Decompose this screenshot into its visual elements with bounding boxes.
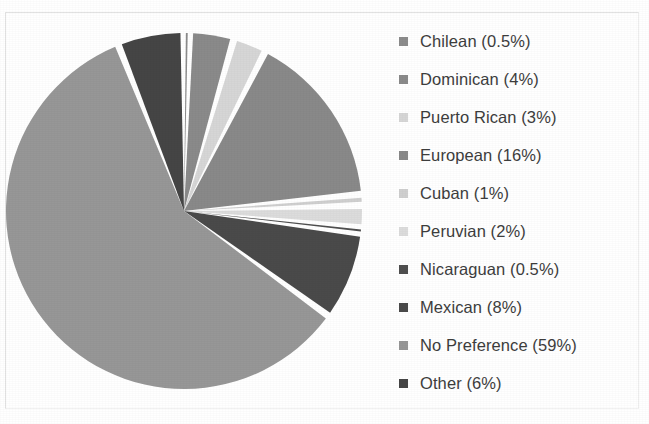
legend-item: Nicaraguan (0.5%) xyxy=(396,250,646,288)
legend-item-label: Cuban (1%) xyxy=(420,184,509,203)
legend-item: No Preference (59%) xyxy=(396,326,646,364)
legend-item: Cuban (1%) xyxy=(396,174,646,212)
legend-item-label: Puerto Rican (3%) xyxy=(420,108,557,127)
chart-page: Chilean (0.5%)Dominican (4%)Puerto Rican… xyxy=(0,0,649,424)
legend-color-swatch-icon xyxy=(399,265,408,274)
legend-item-label: Other (6%) xyxy=(420,374,502,393)
legend-item-label: Mexican (8%) xyxy=(420,298,522,317)
legend-item: Mexican (8%) xyxy=(396,288,646,326)
legend-color-swatch-icon xyxy=(399,303,408,312)
pie-chart-svg xyxy=(0,0,380,424)
legend-item-label: Chilean (0.5%) xyxy=(420,32,531,51)
legend-item: Chilean (0.5%) xyxy=(396,22,646,60)
legend-color-swatch-icon xyxy=(399,189,408,198)
legend-color-swatch-icon xyxy=(399,37,408,46)
legend-item: Other (6%) xyxy=(396,364,646,402)
legend-color-swatch-icon xyxy=(399,341,408,350)
legend-item: Peruvian (2%) xyxy=(396,212,646,250)
legend-item-label: Dominican (4%) xyxy=(420,70,539,89)
chart-legend: Chilean (0.5%)Dominican (4%)Puerto Rican… xyxy=(396,22,646,402)
legend-item: European (16%) xyxy=(396,136,646,174)
legend-item-label: European (16%) xyxy=(420,146,542,165)
legend-color-swatch-icon xyxy=(399,227,408,236)
legend-item: Dominican (4%) xyxy=(396,60,646,98)
pie-chart-area xyxy=(0,0,380,424)
pie-slice-group xyxy=(6,33,362,389)
legend-item-label: Peruvian (2%) xyxy=(420,222,526,241)
legend-color-swatch-icon xyxy=(399,75,408,84)
legend-color-swatch-icon xyxy=(399,113,408,122)
legend-color-swatch-icon xyxy=(399,379,408,388)
legend-item-label: Nicaraguan (0.5%) xyxy=(420,260,559,279)
legend-color-swatch-icon xyxy=(399,151,408,160)
legend-item: Puerto Rican (3%) xyxy=(396,98,646,136)
legend-item-label: No Preference (59%) xyxy=(420,336,577,355)
